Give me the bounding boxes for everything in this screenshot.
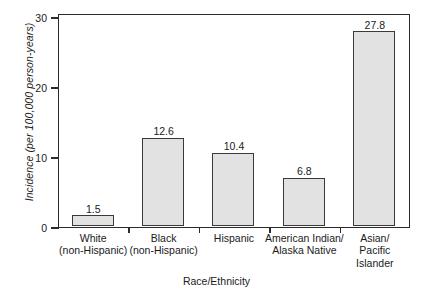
category-label-line: Asian/ [330, 232, 420, 244]
bar[interactable] [283, 178, 325, 226]
bar-chart-figure: Incidence (per 100,000 person-years) 010… [0, 0, 433, 298]
y-axis-title: Incidence (per 100,000 person-years) [23, 0, 35, 227]
x-axis-title: Race/Ethnicity [0, 275, 433, 287]
bar[interactable] [142, 138, 184, 226]
y-axis-tick-label: 10 [0, 152, 47, 164]
category-label-line: (non-Hispanic) [118, 244, 208, 256]
category-label-line: Islander [330, 257, 420, 269]
bar-value-label: 10.4 [195, 140, 273, 152]
bar[interactable] [72, 215, 114, 225]
x-axis-category-label: Asian/PacificIslander [330, 232, 420, 269]
bar-value-label: 27.8 [336, 19, 414, 31]
bar-value-label: 12.6 [125, 125, 203, 137]
plot-area [58, 14, 410, 228]
bar[interactable] [353, 31, 395, 225]
y-axis-tick-label: 30 [0, 12, 47, 24]
bar[interactable] [212, 153, 254, 226]
bar-value-label: 1.5 [54, 203, 132, 215]
y-axis-tick-label: 0 [0, 222, 47, 234]
y-axis-tick-label: 20 [0, 82, 47, 94]
category-label-line: Pacific [330, 244, 420, 256]
bar-value-label: 6.8 [265, 165, 343, 177]
